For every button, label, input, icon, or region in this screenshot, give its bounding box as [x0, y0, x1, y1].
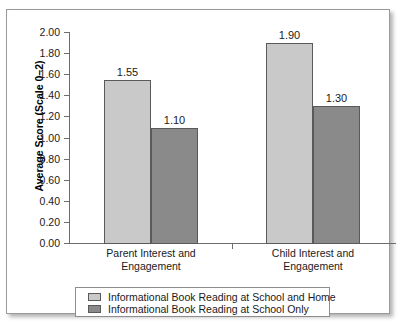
- y-tick-label: 1.80: [26, 48, 60, 58]
- category-label-child: Child Interest and Engagement: [233, 247, 393, 273]
- bar-school-only-child[interactable]: [313, 106, 360, 244]
- legend-item-school-and-home[interactable]: Informational Book Reading at School and…: [88, 291, 329, 303]
- figure-canvas: Average Score (Scale 0–2) 2.00 1.80 1.60…: [0, 0, 404, 329]
- y-tick-label: 0.00: [26, 238, 60, 248]
- bar-school-only-parent[interactable]: [151, 128, 198, 244]
- category-label-parent: Parent Interest and Engagement: [71, 247, 231, 273]
- bar-value-label: 1.10: [151, 114, 198, 126]
- y-tick-label: 2.00: [26, 27, 60, 37]
- y-axis-line: [69, 32, 70, 244]
- chart-panel: Average Score (Scale 0–2) 2.00 1.80 1.60…: [6, 9, 390, 314]
- y-tick-label: 1.40: [26, 90, 60, 100]
- y-tick-label: 1.60: [26, 69, 60, 79]
- bar-value-label: 1.90: [266, 29, 313, 41]
- chart-legend: Informational Book Reading at School and…: [75, 287, 330, 317]
- category-label-line: Parent Interest and: [71, 247, 231, 260]
- legend-item-school-only[interactable]: Informational Book Reading at School Onl…: [88, 303, 329, 315]
- category-label-line: Engagement: [71, 260, 231, 273]
- y-tick-label: 0.20: [26, 217, 60, 227]
- y-tick-label: 1.00: [26, 133, 60, 143]
- y-tick-label: 1.20: [26, 111, 60, 121]
- bar-value-label: 1.55: [104, 66, 151, 78]
- legend-swatch-icon: [88, 293, 101, 301]
- legend-swatch-icon: [88, 305, 101, 313]
- bar-value-label: 1.30: [313, 92, 360, 104]
- bar-school-and-home-parent[interactable]: [104, 80, 151, 244]
- y-tick-label: 0.80: [26, 154, 60, 164]
- y-tick-label: 0.60: [26, 175, 60, 185]
- category-label-line: Engagement: [233, 260, 393, 273]
- y-tick-label: 0.40: [26, 196, 60, 206]
- bar-school-and-home-child[interactable]: [266, 43, 313, 244]
- legend-item-label: Informational Book Reading at School and…: [108, 291, 336, 303]
- legend-item-label: Informational Book Reading at School Onl…: [108, 303, 309, 315]
- category-label-line: Child Interest and: [233, 247, 393, 260]
